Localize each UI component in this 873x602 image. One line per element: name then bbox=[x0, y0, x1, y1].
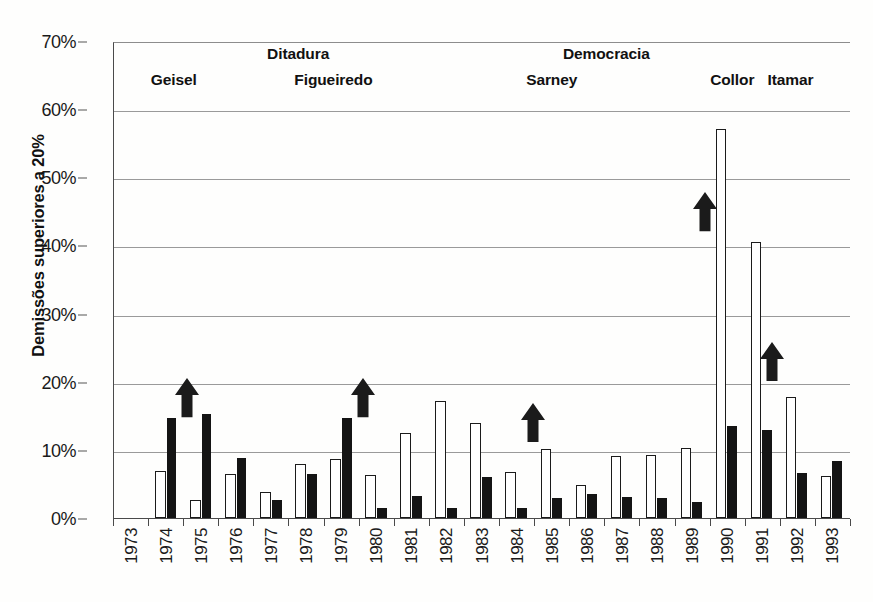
plot-area: DitaduraDemocracia GeiselFigueiredoSarne… bbox=[113, 42, 850, 519]
y-tick-label: 70% bbox=[14, 32, 76, 53]
up-arrow-icon bbox=[759, 342, 785, 381]
y-tick-mark bbox=[78, 178, 87, 179]
bar-group bbox=[640, 43, 675, 518]
bar-group bbox=[535, 43, 570, 518]
bar-black bbox=[482, 477, 492, 518]
bar-white bbox=[330, 459, 341, 518]
bar-group bbox=[570, 43, 605, 518]
bar-white bbox=[260, 492, 271, 518]
bar-black bbox=[832, 461, 842, 518]
bar-black bbox=[797, 473, 807, 518]
x-tick-label: 1990 bbox=[718, 528, 738, 564]
x-tick-label: 1981 bbox=[402, 528, 422, 564]
bar-white bbox=[505, 472, 516, 518]
bar-black bbox=[692, 502, 702, 518]
bar-group bbox=[745, 43, 780, 518]
bar-group bbox=[114, 43, 149, 518]
bar-group bbox=[464, 43, 499, 518]
x-tick-label: 1983 bbox=[473, 528, 493, 564]
x-tick-mark bbox=[148, 519, 149, 526]
bar-black bbox=[727, 426, 737, 518]
bar-group bbox=[500, 43, 535, 518]
x-tick-mark bbox=[464, 519, 465, 526]
x-tick-label: 1985 bbox=[543, 528, 563, 564]
bar-group bbox=[359, 43, 394, 518]
x-tick-mark bbox=[745, 519, 746, 526]
y-tick-mark bbox=[78, 382, 87, 383]
x-tick-label: 1976 bbox=[227, 528, 247, 564]
x-tick-label: 1992 bbox=[788, 528, 808, 564]
y-tick-label: 40% bbox=[14, 236, 76, 257]
bar-group bbox=[324, 43, 359, 518]
x-tick-mark bbox=[675, 519, 676, 526]
bar-black bbox=[377, 508, 387, 518]
x-tick-label: 1993 bbox=[823, 528, 843, 564]
x-tick-label: 1987 bbox=[613, 528, 633, 564]
x-tick-label: 1988 bbox=[648, 528, 668, 564]
bar-group bbox=[710, 43, 745, 518]
bar-group bbox=[149, 43, 184, 518]
era-democracia: Democracia bbox=[563, 45, 650, 63]
x-tick-mark bbox=[569, 519, 570, 526]
bar-group bbox=[605, 43, 640, 518]
bar-black bbox=[202, 414, 212, 519]
y-axis-ticks: 0%10%20%30%40%50%60%70% bbox=[8, 0, 76, 602]
up-arrow-icon bbox=[350, 378, 376, 417]
era-ditadura: Ditadura bbox=[267, 45, 329, 63]
bar-group bbox=[815, 43, 850, 518]
up-arrow-icon bbox=[520, 403, 546, 442]
x-tick-label: 1973 bbox=[122, 528, 142, 564]
x-tick-mark bbox=[710, 519, 711, 526]
bar-white bbox=[365, 475, 376, 518]
bar-white bbox=[155, 471, 166, 519]
x-tick-label: 1979 bbox=[332, 528, 352, 564]
bar-group bbox=[184, 43, 219, 518]
x-tick-mark bbox=[499, 519, 500, 526]
bar-white bbox=[646, 455, 657, 518]
x-tick-mark bbox=[394, 519, 395, 526]
president-collor: Collor bbox=[710, 71, 754, 89]
y-tick-label: 30% bbox=[14, 304, 76, 325]
bar-white bbox=[611, 456, 622, 518]
y-tick-label: 50% bbox=[14, 168, 76, 189]
bar-black bbox=[657, 498, 667, 518]
y-tick-mark bbox=[78, 450, 87, 451]
bar-group bbox=[254, 43, 289, 518]
y-tick-label: 20% bbox=[14, 372, 76, 393]
y-tick-mark bbox=[78, 110, 87, 111]
bar-group bbox=[289, 43, 324, 518]
y-tick-mark bbox=[78, 246, 87, 247]
bar-black bbox=[762, 430, 772, 518]
y-tick-mark bbox=[78, 314, 87, 315]
y-tick-label: 10% bbox=[14, 440, 76, 461]
president-itamar: Itamar bbox=[768, 71, 814, 89]
president-figueiredo: Figueiredo bbox=[294, 71, 372, 89]
bar-black bbox=[517, 508, 527, 518]
y-tick-mark bbox=[78, 42, 87, 43]
x-tick-mark bbox=[288, 519, 289, 526]
bar-group bbox=[429, 43, 464, 518]
bar-white bbox=[435, 401, 446, 518]
bar-black bbox=[237, 458, 247, 518]
bar-white bbox=[470, 423, 481, 518]
y-tick-label: 0% bbox=[14, 509, 76, 530]
bar-white bbox=[190, 500, 201, 518]
x-tick-mark bbox=[359, 519, 360, 526]
x-tick-label: 1977 bbox=[262, 528, 282, 564]
bar-group bbox=[780, 43, 815, 518]
x-tick-label: 1975 bbox=[192, 528, 212, 564]
bar-white bbox=[786, 397, 797, 518]
bar-series-container bbox=[114, 43, 850, 518]
x-tick-mark bbox=[183, 519, 184, 526]
y-tick-mark bbox=[78, 519, 87, 520]
x-tick-mark bbox=[780, 519, 781, 526]
bar-black bbox=[272, 500, 282, 518]
bar-black bbox=[447, 508, 457, 518]
x-tick-mark bbox=[604, 519, 605, 526]
bar-black bbox=[167, 418, 177, 518]
x-tick-label: 1978 bbox=[297, 528, 317, 564]
president-geisel: Geisel bbox=[151, 71, 197, 89]
x-tick-mark bbox=[534, 519, 535, 526]
x-tick-mark bbox=[324, 519, 325, 526]
bar-black bbox=[307, 474, 317, 518]
